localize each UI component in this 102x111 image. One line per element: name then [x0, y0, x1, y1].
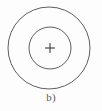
- figure-container: b): [0, 0, 102, 111]
- figure-caption: b): [0, 91, 102, 104]
